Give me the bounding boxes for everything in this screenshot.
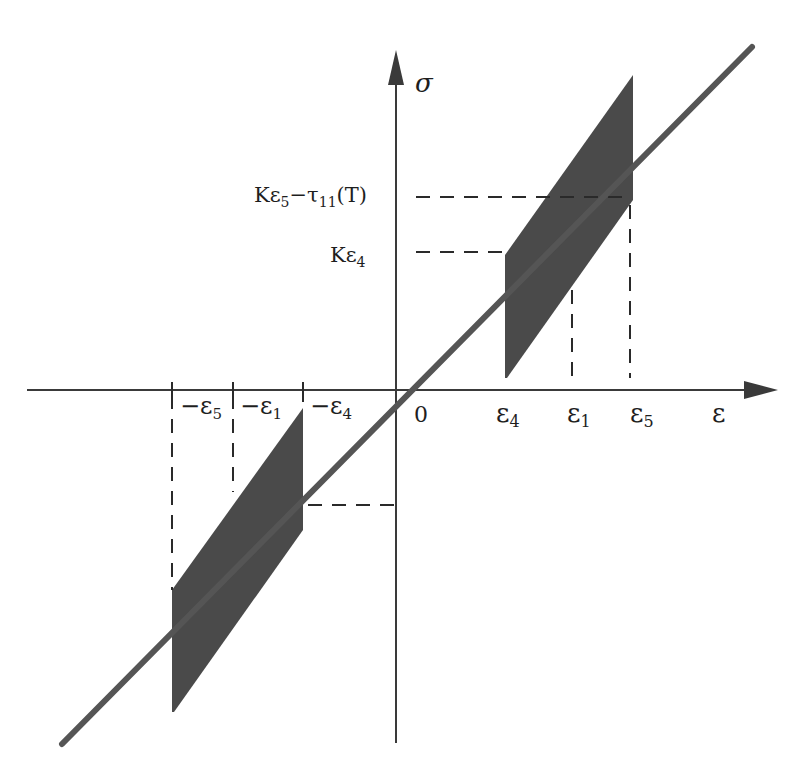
origin-label: 0 [414, 402, 428, 427]
x-axis-arrow-icon [744, 381, 778, 399]
tick-label-neg-eps5: −ε5 [180, 392, 222, 423]
tick-label-eps5: ε5 [630, 398, 654, 431]
tick-label-eps4: ε4 [496, 398, 520, 431]
y-axis-label: σ [415, 68, 434, 98]
tick-label-k-eps5-tau11: Kε5−τ11(T) [254, 183, 367, 210]
tick-label-eps1: ε1 [567, 398, 591, 431]
tick-label-neg-eps4: −ε4 [310, 392, 352, 423]
x-axis-label: ε [712, 398, 725, 428]
tick-label-neg-eps1: −ε1 [240, 392, 282, 423]
y-axis-arrow-icon [388, 50, 404, 85]
elastic-line [62, 47, 752, 744]
lower-hysteresis-band [172, 408, 303, 712]
stress-strain-diagram: σ ε 0 −ε5 −ε1 −ε4 ε4 ε1 ε5 Kε5−τ11(T) Kε… [0, 0, 798, 777]
tick-label-k-eps4: Kε4 [330, 243, 366, 270]
upper-hysteresis-band [505, 75, 633, 378]
